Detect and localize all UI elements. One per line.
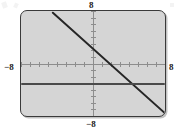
- scan-artifact-icon: [13, 2, 19, 8]
- y-axis-tick: [91, 37, 96, 38]
- axis-label-bottom: −8: [86, 120, 96, 129]
- x-axis-tick: [84, 62, 85, 67]
- axis-label-right: 8: [169, 63, 174, 72]
- y-axis-tick: [91, 70, 96, 71]
- x-axis-tick: [156, 62, 157, 67]
- x-axis-tick: [48, 62, 49, 67]
- axis-label-top: 8: [89, 1, 94, 10]
- y-axis-tick: [91, 90, 96, 91]
- axis-label-left: −8: [4, 63, 14, 72]
- x-axis-tick: [147, 62, 148, 67]
- y-axis-tick: [91, 44, 96, 45]
- y-axis-tick: [91, 77, 96, 78]
- screenshot-root: 8 −8 −8 8: [0, 0, 181, 133]
- y-axis-tick: [91, 18, 96, 19]
- y-axis-tick: [91, 96, 96, 97]
- x-axis-tick: [30, 62, 31, 67]
- y-axis-tick: [91, 116, 96, 117]
- x-axis-tick: [57, 62, 58, 67]
- scan-artifact-icon: [170, 3, 174, 7]
- x-axis-tick: [39, 62, 40, 67]
- y-axis-tick: [91, 31, 96, 32]
- y-axis: [93, 11, 94, 116]
- y-axis-tick: [91, 24, 96, 25]
- scan-artifact-icon: [1, 1, 8, 8]
- x-axis-tick: [75, 62, 76, 67]
- x-axis-tick: [165, 62, 166, 67]
- x-axis-tick: [102, 62, 103, 67]
- x-axis-tick: [120, 62, 121, 67]
- x-axis-tick: [129, 62, 130, 67]
- plot-panel: [20, 10, 166, 117]
- y-axis-tick: [91, 57, 96, 58]
- y-axis-tick: [91, 103, 96, 104]
- y-axis-tick: [91, 11, 96, 12]
- x-axis-tick: [21, 62, 22, 67]
- x-axis-tick: [66, 62, 67, 67]
- plot-line-horizontal: [21, 83, 165, 85]
- y-axis-tick: [91, 109, 96, 110]
- x-axis-tick: [138, 62, 139, 67]
